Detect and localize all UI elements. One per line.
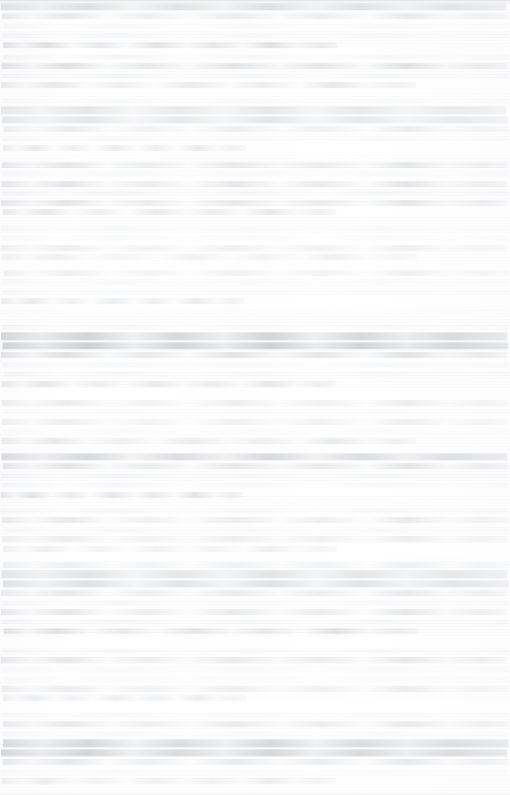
text-line-smear [2, 481, 508, 491]
text-line-smear [2, 31, 508, 41]
text-line-smear [3, 675, 509, 685]
text-column [2, 0, 508, 795]
text-line-smear [1, 2, 507, 12]
text-line-smear [2, 758, 508, 768]
text-line-smear [1, 436, 507, 446]
text-line-smear [1, 297, 507, 307]
text-line-smear [1, 656, 507, 666]
text-line-smear [3, 427, 509, 437]
text-block [2, 96, 508, 153]
text-line-smear [3, 52, 509, 62]
text-block [2, 710, 508, 786]
text-line-smear [3, 694, 509, 704]
text-line-smear [3, 40, 509, 50]
text-block [2, 506, 508, 554]
text-line-smear [2, 360, 508, 370]
text-line-smear [2, 208, 508, 218]
text-line-smear [2, 115, 508, 125]
text-line-smear [3, 627, 509, 637]
text-line-smear [3, 287, 509, 297]
text-line-smear [2, 516, 508, 526]
text-line-smear [2, 253, 508, 263]
text-line-smear [3, 268, 509, 278]
text-line-smear [3, 560, 509, 570]
text-line-smear [3, 144, 509, 154]
text-line-smear [3, 71, 509, 81]
text-block [2, 52, 508, 90]
text-line-smear [1, 198, 507, 208]
text-line-smear [3, 21, 509, 31]
text-line-smear [2, 665, 508, 675]
text-line-smear [1, 351, 507, 361]
text-line-smear [1, 106, 507, 116]
document-page [0, 0, 510, 795]
text-line-smear [3, 408, 509, 418]
text-line-smear [3, 322, 509, 332]
text-line-smear [2, 234, 508, 244]
text-block [2, 398, 508, 446]
text-line-smear [1, 224, 507, 234]
text-line-smear [2, 379, 508, 389]
text-line-smear [3, 720, 509, 730]
text-block [2, 160, 508, 217]
text-line-smear [2, 598, 508, 608]
text-line-smear [3, 579, 509, 589]
text-line-smear [1, 62, 507, 72]
text-line-smear [1, 243, 507, 253]
text-line-smear [3, 189, 509, 199]
text-line-smear [1, 608, 507, 618]
text-line-smear [2, 617, 508, 627]
text-line-smear [2, 710, 508, 720]
text-line-smear [3, 544, 509, 554]
text-line-smear [2, 278, 508, 288]
text-line-smear [3, 170, 509, 180]
text-line-smear [2, 134, 508, 144]
text-line-smear [1, 81, 507, 91]
text-line-smear [1, 729, 507, 739]
text-line-smear [2, 684, 508, 694]
text-line-smear [1, 332, 507, 342]
text-line-smear [1, 767, 507, 777]
text-line-smear [2, 398, 508, 408]
text-block [2, 224, 508, 262]
text-line-smear [3, 370, 509, 380]
text-block [2, 2, 508, 50]
text-line-smear [3, 462, 509, 472]
text-line-smear [3, 125, 509, 135]
text-block [2, 560, 508, 636]
text-line-smear [1, 490, 507, 500]
text-line-smear [1, 452, 507, 462]
text-line-smear [3, 739, 509, 749]
text-line-smear [2, 535, 508, 545]
text-line-smear [1, 179, 507, 189]
text-line-smear [2, 341, 508, 351]
text-line-smear [3, 525, 509, 535]
text-line-smear [1, 506, 507, 516]
text-line-smear [2, 12, 508, 22]
text-line-smear [1, 570, 507, 580]
text-line-smear [2, 96, 508, 106]
text-block [2, 646, 508, 703]
text-line-smear [1, 471, 507, 481]
text-block [2, 452, 508, 500]
text-line-smear [2, 417, 508, 427]
text-block [2, 322, 508, 389]
text-line-smear [2, 160, 508, 170]
text-line-smear [2, 777, 508, 787]
text-line-smear [1, 589, 507, 599]
text-line-smear [1, 748, 507, 758]
text-line-smear [2, 646, 508, 656]
text-block [2, 268, 508, 306]
